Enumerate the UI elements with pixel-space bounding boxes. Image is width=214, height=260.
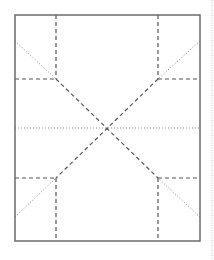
dotted-fold-line <box>158 178 200 217</box>
dotted-fold-line <box>15 178 56 217</box>
dotted-fold-line <box>15 41 56 79</box>
fold-diagram <box>0 0 214 260</box>
dotted-fold-line <box>158 41 200 79</box>
